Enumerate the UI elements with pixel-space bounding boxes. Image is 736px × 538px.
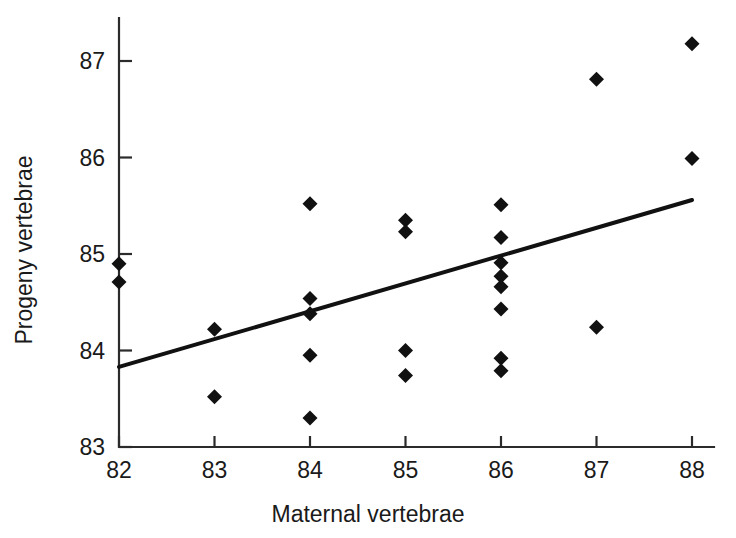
x-axis-tickmarks <box>119 436 692 447</box>
data-point <box>207 389 222 404</box>
x-tick-label-87: 87 <box>584 457 610 483</box>
x-tick-label-88: 88 <box>679 457 705 483</box>
data-point <box>685 36 700 51</box>
data-point <box>398 343 413 358</box>
data-point <box>494 363 509 378</box>
data-point <box>589 72 604 87</box>
y-tick-label-84: 84 <box>79 338 105 364</box>
y-axis-tickmarks <box>119 61 132 447</box>
plot-canvas: 82838485868788 8384858687 Maternal verte… <box>0 0 736 538</box>
x-tick-label-83: 83 <box>202 457 228 483</box>
axes-group <box>119 18 714 447</box>
data-point <box>494 197 509 212</box>
y-axis-title: Progeny vertebrae <box>11 155 37 344</box>
data-point <box>303 196 318 211</box>
x-tick-label-85: 85 <box>393 457 419 483</box>
x-tick-label-84: 84 <box>297 457 323 483</box>
data-point <box>398 368 413 383</box>
data-point <box>589 320 604 335</box>
x-tick-label-82: 82 <box>106 457 132 483</box>
data-point <box>303 348 318 363</box>
data-point <box>207 322 222 337</box>
data-point <box>494 279 509 294</box>
data-point <box>303 411 318 426</box>
y-tick-label-83: 83 <box>79 434 105 460</box>
data-points-group <box>112 36 700 425</box>
data-point <box>398 224 413 239</box>
data-point <box>494 302 509 317</box>
y-axis-tick-labels: 8384858687 <box>79 48 105 460</box>
x-tick-label-86: 86 <box>488 457 514 483</box>
data-point <box>112 274 127 289</box>
axis-spine <box>119 18 714 447</box>
y-tick-label-85: 85 <box>79 241 105 267</box>
data-point <box>112 256 127 271</box>
y-tick-label-87: 87 <box>79 48 105 74</box>
data-point <box>685 151 700 166</box>
x-axis-title: Maternal vertebrae <box>271 501 464 527</box>
data-point <box>494 230 509 245</box>
data-point <box>303 291 318 306</box>
scatter-plot-figure: 82838485868788 8384858687 Maternal verte… <box>0 0 736 538</box>
x-axis-tick-labels: 82838485868788 <box>106 457 705 483</box>
y-tick-label-86: 86 <box>79 145 105 171</box>
